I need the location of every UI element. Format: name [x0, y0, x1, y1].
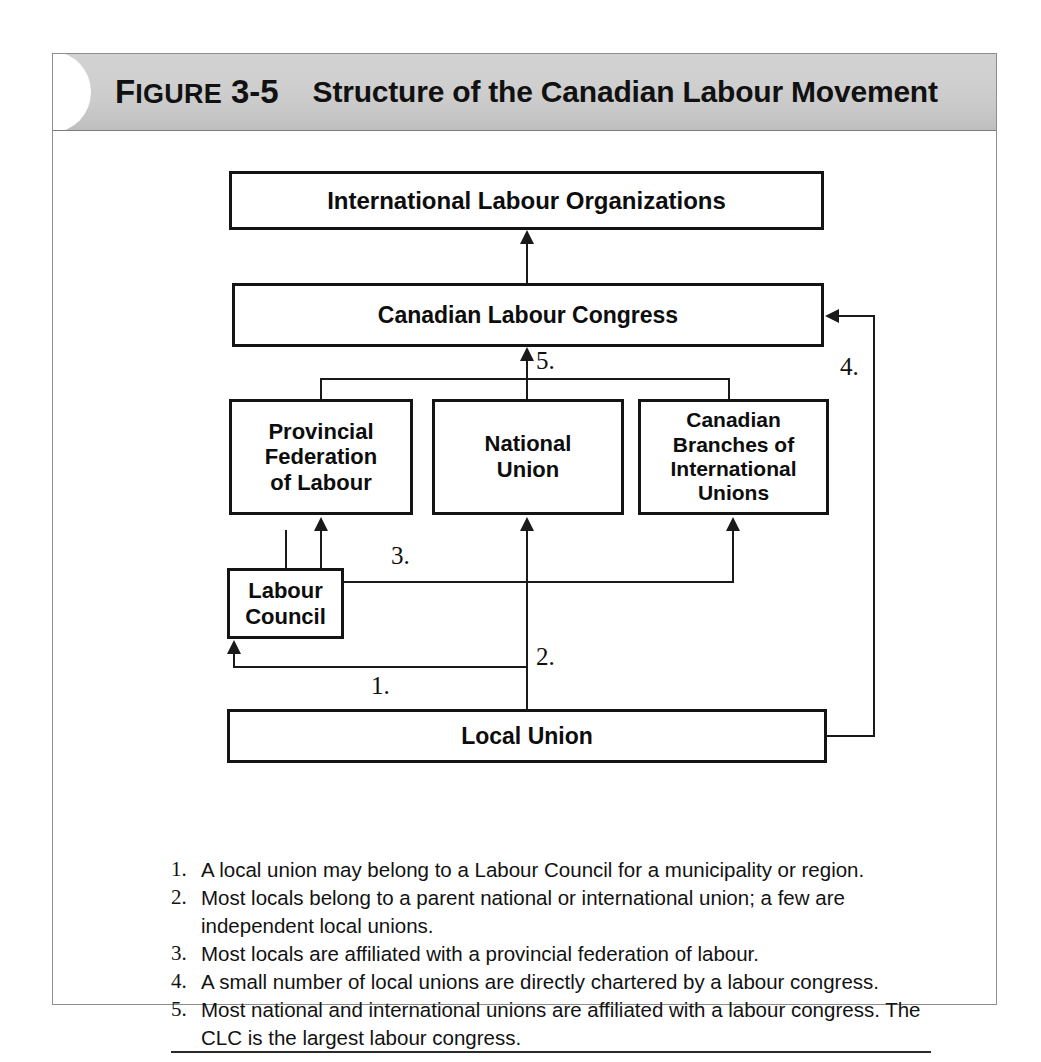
connector-label-1: 1. [371, 672, 390, 700]
note-number: 4. [171, 968, 195, 996]
edge-local-to-clc-riser [873, 315, 875, 736]
edge-pfl-riser [320, 378, 322, 400]
node-label: International Labour Organizations [327, 187, 726, 215]
note-number: 2. [171, 884, 195, 912]
note-number: 5. [171, 996, 195, 1024]
edge-locals-to-federations-bus [285, 581, 734, 583]
node-label: CanadianBranches ofInternationalUnions [670, 408, 796, 505]
figure-label-rest: IGURE [135, 79, 222, 109]
node-canadian-labour-congress: Canadian Labour Congress [232, 283, 824, 347]
figure-label-initial: F [115, 73, 135, 110]
edge-local-to-clc-lower-horizontal [827, 735, 875, 737]
edge-bus-to-clc-arrowhead [520, 347, 534, 361]
edge-to-cbiu-arrowhead [726, 517, 740, 531]
edge-to-pfl-arrowhead [314, 517, 328, 531]
note-text: Most locals belong to a parent national … [201, 884, 931, 939]
node-label: LabourCouncil [245, 578, 326, 629]
edge-local-to-clc-arrowhead [825, 309, 839, 323]
node-national-union: NationalUnion [432, 399, 624, 515]
edge-clc-to-ilo-arrowhead [520, 230, 534, 244]
node-label: Local Union [461, 723, 593, 750]
connector-label-2: 2. [536, 643, 555, 671]
note-item: 4. A small number of local unions are di… [171, 968, 931, 995]
connector-label-3: 3. [391, 542, 410, 570]
note-text: A small number of local unions are direc… [201, 968, 931, 995]
node-canadian-branches-of-international-unions: CanadianBranches ofInternationalUnions [638, 399, 829, 515]
notes-divider [171, 1051, 931, 1053]
edge-local-to-clc-upper-horizontal [839, 315, 875, 317]
node-label: ProvincialFederationof Labour [265, 419, 377, 496]
connector-label-5: 5. [536, 347, 555, 375]
edge-cbiu-riser [728, 378, 730, 400]
figure-title: Structure of the Canadian Labour Movemen… [313, 75, 938, 109]
edge-local-to-council-riser [233, 653, 235, 667]
note-item: 1. A local union may belong to a Labour … [171, 856, 931, 883]
node-provincial-federation-of-labour: ProvincialFederationof Labour [229, 399, 413, 515]
figure-page: FIGURE 3-5 Structure of the Canadian Lab… [0, 0, 1041, 1062]
note-text: A local union may belong to a Labour Cou… [201, 856, 931, 883]
note-number: 1. [171, 856, 195, 884]
note-number: 3. [171, 940, 195, 968]
note-text: Most national and international unions a… [201, 996, 931, 1051]
edge-bus-to-clc-horizontal [320, 378, 730, 380]
figure-header-text: FIGURE 3-5 Structure of the Canadian Lab… [115, 54, 938, 130]
header-notch-decoration [53, 54, 91, 131]
figure-label: FIGURE [115, 73, 222, 111]
note-item: 2. Most locals belong to a parent nation… [171, 884, 931, 939]
figure-number: 3-5 [231, 73, 279, 111]
edge-local-to-national-stem [526, 530, 528, 710]
node-local-union: Local Union [227, 709, 827, 763]
edge-local-to-council-arrowhead [227, 640, 241, 654]
edge-bus-to-clc-stem [526, 359, 528, 401]
note-item: 3. Most locals are affiliated with a pro… [171, 940, 931, 967]
figure-header-banner: FIGURE 3-5 Structure of the Canadian Lab… [53, 54, 996, 131]
edge-local-to-national-arrowhead [520, 517, 534, 531]
org-diagram: International Labour Organizations Canad… [53, 131, 996, 1006]
note-item: 5. Most national and international union… [171, 996, 931, 1051]
note-text: Most locals are affiliated with a provin… [201, 940, 931, 967]
node-label: NationalUnion [485, 431, 572, 482]
node-international-labour-organizations: International Labour Organizations [229, 171, 824, 230]
edge-to-cbiu-stem [732, 529, 734, 582]
figure-notes-list: 1. A local union may belong to a Labour … [171, 856, 931, 1052]
node-label: Canadian Labour Congress [378, 302, 678, 329]
edge-clc-to-ilo-stem [526, 242, 528, 283]
figure-frame: FIGURE 3-5 Structure of the Canadian Lab… [52, 53, 997, 1005]
node-labour-council: LabourCouncil [227, 568, 344, 639]
edge-local-to-council-horizontal [233, 666, 528, 668]
connector-label-4: 4. [840, 353, 859, 381]
